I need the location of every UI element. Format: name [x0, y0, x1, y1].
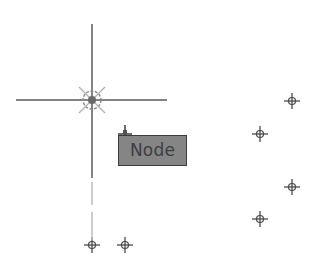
drawing-canvas[interactable]: [0, 0, 333, 267]
node-point-icon[interactable]: [117, 237, 133, 253]
node-points-layer: [84, 93, 300, 253]
osnap-tooltip-label: Node: [130, 140, 175, 160]
node-point-icon[interactable]: [284, 179, 300, 195]
cursor-pickbox-icon: [118, 125, 132, 135]
node-point-icon[interactable]: [252, 211, 268, 227]
node-point-icon[interactable]: [284, 93, 300, 109]
osnap-tooltip: Node: [118, 135, 187, 166]
crosshair-cursor: [16, 24, 167, 240]
node-point-icon[interactable]: [252, 126, 268, 142]
node-snap-marker-icon: [79, 87, 105, 113]
